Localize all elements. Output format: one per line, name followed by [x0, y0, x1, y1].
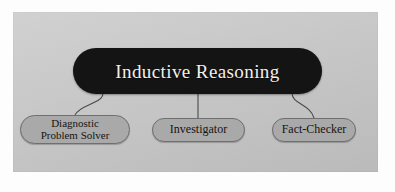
- child-node-label: Investigator: [164, 124, 233, 136]
- child-node-investigator[interactable]: Investigator: [152, 118, 245, 142]
- child-node-diagnostic-problem-solver[interactable]: Diagnostic Problem Solver: [20, 115, 130, 144]
- root-node-label: Inductive Reasoning: [115, 62, 279, 81]
- child-node-label: Diagnostic Problem Solver: [35, 118, 116, 141]
- child-node-fact-checker[interactable]: Fact-Checker: [272, 118, 356, 142]
- diagram-canvas: Inductive Reasoning Diagnostic Problem S…: [0, 0, 395, 192]
- child-node-label: Fact-Checker: [276, 124, 353, 136]
- root-node-inductive-reasoning[interactable]: Inductive Reasoning: [73, 48, 322, 94]
